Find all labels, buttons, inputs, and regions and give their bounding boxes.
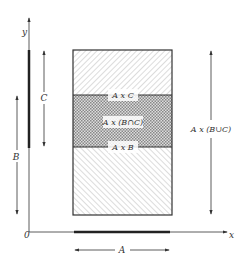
- dimension-a-x-b-union-c: A x (B∪C): [190, 51, 231, 214]
- y-axis-label: y: [21, 27, 28, 37]
- region-a-x-c: [73, 50, 172, 95]
- label-a-x-b: A x B: [111, 143, 133, 152]
- label-a-x-c: A x C: [111, 91, 134, 100]
- x-axis-label: x: [229, 230, 234, 240]
- origin-label: 0: [24, 230, 30, 240]
- cartesian-product-diagram: A x C A x (B∩C) A x B y x 0 C B A A x (B…: [0, 0, 244, 269]
- b-label: B: [12, 152, 20, 162]
- dimension-b: B: [12, 96, 20, 214]
- region-a-x-b: [73, 147, 172, 215]
- dimension-c: C: [41, 51, 48, 146]
- product-rectangle: [73, 50, 172, 215]
- union-label: A x (B∪C): [190, 125, 231, 134]
- dimension-a: A: [75, 245, 169, 255]
- c-label: C: [41, 93, 48, 103]
- label-a-x-b-intersect-c: A x (B∩C): [102, 118, 143, 127]
- y-axis: y: [21, 18, 29, 232]
- a-label: A: [118, 245, 126, 255]
- x-axis: x: [29, 230, 234, 240]
